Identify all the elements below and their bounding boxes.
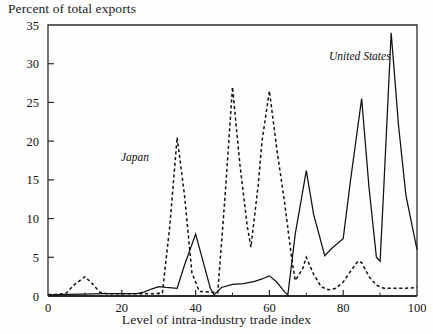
svg-text:25: 25 [27, 96, 40, 110]
series-line-japan [48, 87, 417, 295]
series-line-united-states [48, 33, 417, 295]
series-annotation-united-states: United States [329, 50, 391, 62]
x-axis-label: Level of intra-industry trade index [0, 312, 433, 328]
series-annotation-japan: Japan [121, 151, 149, 163]
svg-text:35: 35 [27, 19, 40, 33]
svg-text:5: 5 [33, 251, 39, 265]
svg-text:10: 10 [27, 212, 40, 226]
svg-text:30: 30 [27, 57, 40, 71]
svg-text:20: 20 [27, 135, 40, 149]
chart-figure: Percent of total exports 051015202530350… [0, 0, 433, 334]
axes-group [48, 25, 417, 296]
data-series-group [48, 33, 417, 295]
tick-marks-group [48, 64, 380, 296]
svg-text:0: 0 [33, 290, 39, 304]
tick-labels-group: 05101520253035020406080100 [27, 19, 427, 316]
svg-text:15: 15 [27, 173, 40, 187]
